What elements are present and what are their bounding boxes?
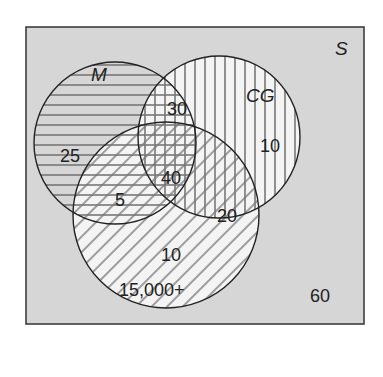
- universe-label: S: [335, 38, 348, 59]
- region-outside: 60: [310, 286, 330, 306]
- region-cg-only: 10: [260, 136, 280, 156]
- region-cg-third: 20: [217, 206, 237, 226]
- venn-diagram: S M CG 25 30 10 40 5 20 10 15,000+ 60: [0, 0, 383, 377]
- region-third-only-note: 15,000+: [119, 280, 185, 300]
- region-m-cg: 30: [167, 99, 187, 119]
- region-third-only-count: 10: [161, 245, 181, 265]
- region-m-third: 5: [115, 190, 125, 210]
- region-m-only: 25: [60, 146, 80, 166]
- set-cg-label: CG: [246, 85, 275, 106]
- set-m-label: M: [91, 64, 107, 85]
- region-m-cg-third: 40: [161, 168, 181, 188]
